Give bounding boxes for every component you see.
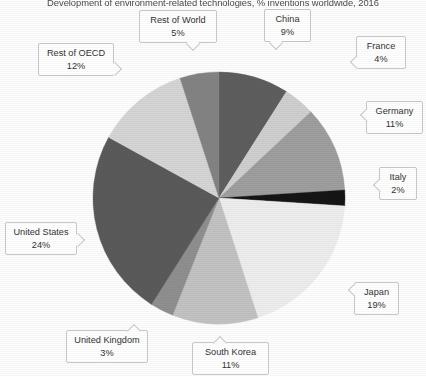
callout-france: France 4%	[356, 36, 406, 69]
pie-chart-svg	[92, 71, 346, 325]
callout-china: China 9%	[264, 9, 311, 42]
callout-value-italy: 2%	[386, 184, 410, 197]
callout-value-united-kingdom: 3%	[73, 347, 141, 360]
callout-label-france: France	[363, 40, 399, 53]
callout-label-rest-of-oecd: Rest of OECD	[45, 47, 107, 60]
callout-rest-of-world: Rest of World 5%	[139, 10, 217, 43]
callout-label-china: China	[271, 13, 304, 26]
callout-value-france: 4%	[363, 53, 399, 66]
callout-value-south-korea: 11%	[199, 359, 262, 372]
callout-label-united-states: United States	[12, 226, 70, 239]
callout-tail-icon	[348, 283, 362, 297]
callout-value-united-states: 24%	[12, 239, 70, 252]
callout-label-united-kingdom: United Kingdom	[73, 334, 141, 347]
callout-tail-icon	[186, 37, 200, 51]
callout-united-kingdom: United Kingdom 3%	[66, 330, 148, 363]
callout-label-italy: Italy	[386, 171, 410, 184]
callout-value-japan: 19%	[361, 299, 392, 312]
callout-value-rest-of-oecd: 12%	[45, 60, 107, 73]
callout-value-rest-of-world: 5%	[146, 27, 210, 40]
callout-tail-icon	[269, 36, 283, 50]
pie-chart	[92, 71, 346, 325]
callout-label-rest-of-world: Rest of World	[146, 14, 210, 27]
callout-united-states: United States 24%	[5, 222, 77, 255]
callout-label-germany: Germany	[373, 105, 416, 118]
callout-italy: Italy 2%	[379, 167, 417, 200]
callout-tail-icon	[360, 108, 374, 122]
callout-rest-of-oecd: Rest of OECD 12%	[38, 43, 114, 76]
callout-tail-icon	[373, 178, 387, 192]
callout-tail-icon	[350, 55, 364, 69]
callout-germany: Germany 11%	[366, 101, 423, 134]
chart-title: Development of environment-related techn…	[0, 0, 426, 9]
pie-slice-group	[93, 72, 345, 324]
callout-label-south-korea: South Korea	[199, 346, 262, 359]
callout-japan: Japan 19%	[354, 282, 399, 315]
callout-south-korea: South Korea 11%	[192, 342, 269, 375]
chart-page: Development of environment-related techn…	[0, 0, 426, 376]
callout-value-germany: 11%	[373, 118, 416, 131]
callout-label-japan: Japan	[361, 286, 392, 299]
callout-tail-icon	[71, 233, 85, 247]
